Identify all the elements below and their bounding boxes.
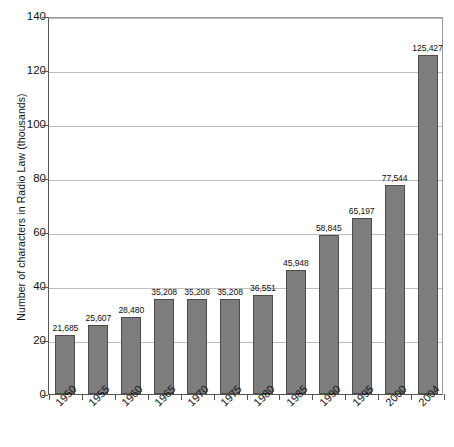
bar-group[interactable]: 77,544 xyxy=(385,16,405,394)
bar-group[interactable]: 36,551 xyxy=(253,16,273,394)
bar[interactable] xyxy=(253,295,273,394)
y-tick-mark xyxy=(42,125,48,126)
y-tick-label: 40 xyxy=(0,280,46,292)
bar-group[interactable]: 45,948 xyxy=(286,16,306,394)
y-tick-label: 60 xyxy=(0,226,46,238)
bar-value-label: 35,208 xyxy=(151,287,177,297)
bar-group[interactable]: 28,480 xyxy=(121,16,141,394)
x-tick-mark xyxy=(148,394,149,400)
bar-group[interactable]: 25,607 xyxy=(88,16,108,394)
x-tick-mark xyxy=(444,394,445,400)
bar-group[interactable]: 58,845 xyxy=(319,16,339,394)
bar[interactable] xyxy=(154,299,174,394)
x-tick-mark xyxy=(115,394,116,400)
bar-value-label: 58,845 xyxy=(316,223,342,233)
x-tick-mark xyxy=(82,394,83,400)
bar[interactable] xyxy=(418,55,438,394)
y-tick-mark xyxy=(42,71,48,72)
x-tick-mark xyxy=(214,394,215,400)
y-tick-mark xyxy=(42,179,48,180)
bar[interactable] xyxy=(385,185,405,394)
bar-value-label: 35,208 xyxy=(184,287,210,297)
y-tick-label: 0 xyxy=(0,388,46,400)
bar[interactable] xyxy=(88,325,108,394)
bar-group[interactable]: 35,208 xyxy=(220,16,240,394)
y-tick-mark xyxy=(42,233,48,234)
bar[interactable] xyxy=(319,235,339,394)
bar-group[interactable]: 125,427 xyxy=(418,16,438,394)
x-tick-mark xyxy=(411,394,412,400)
bar-group[interactable]: 35,208 xyxy=(154,16,174,394)
x-tick-mark xyxy=(345,394,346,400)
bar-group[interactable]: 65,197 xyxy=(352,16,372,394)
bar[interactable] xyxy=(352,218,372,394)
bar-chart: Number of characters in Radio Law (thous… xyxy=(0,0,454,447)
y-tick-label: 120 xyxy=(0,64,46,76)
bar-group[interactable]: 35,208 xyxy=(187,16,207,394)
y-tick-mark xyxy=(42,395,48,396)
bar-value-label: 28,480 xyxy=(118,305,144,315)
bar[interactable] xyxy=(121,317,141,394)
x-tick-mark xyxy=(49,394,50,400)
bar-value-label: 125,427 xyxy=(412,43,442,53)
bar-value-label: 36,551 xyxy=(250,283,276,293)
x-tick-mark xyxy=(378,394,379,400)
y-tick-mark xyxy=(42,287,48,288)
x-tick-mark xyxy=(181,394,182,400)
x-tick-mark xyxy=(247,394,248,400)
y-tick-label: 80 xyxy=(0,172,46,184)
y-tick-mark xyxy=(42,341,48,342)
y-axis-title: Number of characters in Radio Law (thous… xyxy=(15,57,27,357)
bar-value-label: 21,685 xyxy=(53,323,79,333)
plot-area: 21,68525,60728,48035,20835,20835,20836,5… xyxy=(48,17,443,395)
y-tick-label: 140 xyxy=(0,10,46,22)
y-tick-label: 20 xyxy=(0,334,46,346)
bar-group[interactable]: 21,685 xyxy=(55,16,75,394)
x-tick-mark xyxy=(312,394,313,400)
bar[interactable] xyxy=(286,270,306,394)
y-tick-mark xyxy=(42,17,48,18)
bar[interactable] xyxy=(187,299,207,394)
y-tick-label: 100 xyxy=(0,118,46,130)
x-tick-mark xyxy=(279,394,280,400)
bar-value-label: 35,208 xyxy=(217,287,243,297)
bar-value-label: 77,544 xyxy=(382,173,408,183)
bar-value-label: 25,607 xyxy=(86,313,112,323)
bar[interactable] xyxy=(220,299,240,394)
bar-value-label: 45,948 xyxy=(283,258,309,268)
bar-value-label: 65,197 xyxy=(349,206,375,216)
